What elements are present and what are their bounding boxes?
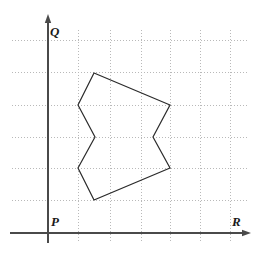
coordinate-figure: Q P R [0,0,261,262]
origin-label-p: P [51,215,59,228]
r-axis-arrowhead [242,230,251,236]
grid-lines [12,30,247,243]
axis-label-r: R [232,215,241,228]
figure-canvas [0,0,261,262]
axes [10,14,251,243]
q-axis-arrowhead [45,14,51,23]
axis-label-q: Q [50,25,59,38]
